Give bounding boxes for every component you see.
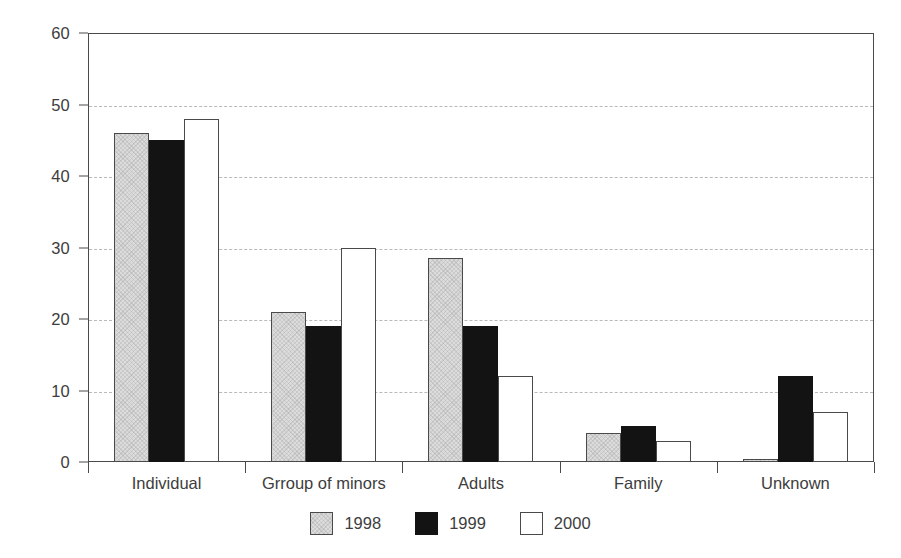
legend-item[interactable]: 2000 (520, 512, 591, 535)
bar (271, 312, 306, 462)
bar (149, 140, 184, 462)
y-axis-tick-mark (79, 319, 88, 320)
bar-chart: 0102030405060 IndividualGrroup of minors… (0, 0, 901, 558)
x-axis-tick-label: Adults (458, 474, 504, 493)
bar (184, 119, 219, 462)
x-axis-separator (874, 462, 875, 473)
bar (463, 326, 498, 462)
bar (813, 412, 848, 462)
bar-group (245, 33, 402, 462)
bar-group (717, 33, 874, 462)
bar (498, 376, 533, 462)
y-axis-tick-label: 20 (24, 310, 70, 329)
bar-group (560, 33, 717, 462)
x-axis-tick-label: Unknown (761, 474, 830, 493)
legend-label: 2000 (554, 514, 591, 533)
y-axis-tick-label: 0 (24, 453, 70, 472)
bar-group (402, 33, 559, 462)
bar (656, 441, 691, 462)
bar (428, 258, 463, 462)
bar (778, 376, 813, 462)
legend-swatch-icon (310, 512, 333, 535)
y-axis-tick-mark (79, 390, 88, 391)
y-axis-tick-label: 60 (24, 24, 70, 43)
legend: 199819992000 (0, 512, 901, 535)
y-axis-tick-mark (79, 104, 88, 105)
bar (306, 326, 341, 462)
x-axis-tick-label: Family (614, 474, 663, 493)
legend-item[interactable]: 1999 (415, 512, 486, 535)
x-axis-separator (88, 462, 89, 473)
y-axis-tick-label: 50 (24, 95, 70, 114)
y-axis-tick-mark (79, 176, 88, 177)
y-axis-tick-label: 40 (24, 167, 70, 186)
bar (621, 426, 656, 462)
legend-label: 1999 (449, 514, 486, 533)
bar-group (88, 33, 245, 462)
bar (341, 248, 376, 463)
legend-swatch-icon (520, 512, 543, 535)
bar (586, 433, 621, 462)
x-axis-separator (717, 462, 718, 473)
legend-item[interactable]: 1998 (310, 512, 381, 535)
x-axis-separator (402, 462, 403, 473)
y-axis-tick-mark (79, 33, 88, 34)
y-axis-tick-mark (79, 462, 88, 463)
x-axis-separator (560, 462, 561, 473)
bars-layer (88, 33, 874, 462)
x-axis-separator (245, 462, 246, 473)
y-axis-tick-label: 30 (24, 238, 70, 257)
legend-swatch-icon (415, 512, 438, 535)
x-axis-tick-label: Grroup of minors (262, 474, 386, 493)
bar (114, 133, 149, 462)
x-axis-tick-label: Individual (132, 474, 202, 493)
legend-label: 1998 (344, 514, 381, 533)
bar (743, 459, 778, 462)
y-axis-tick-mark (79, 247, 88, 248)
y-axis-tick-label: 10 (24, 381, 70, 400)
